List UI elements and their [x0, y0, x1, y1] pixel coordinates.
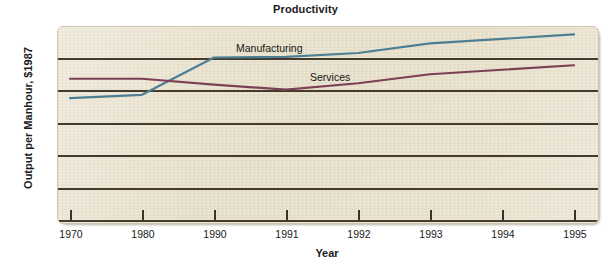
gridline-10 — [58, 155, 598, 157]
gridline-0 — [58, 220, 598, 222]
chart-title: Productivity — [0, 3, 611, 15]
x-tick-1970 — [70, 210, 72, 220]
x-axis-title: Year — [57, 247, 597, 259]
chart-figure: Productivity Output per Manhour, $1987 3… — [0, 0, 611, 274]
x-tick-label-1980: 1980 — [113, 228, 173, 240]
series-label-manufacturing: Manufacturing — [236, 42, 303, 54]
x-tick-label-1992: 1992 — [329, 228, 389, 240]
x-tick-1980 — [142, 210, 144, 220]
x-tick-1993 — [430, 210, 432, 220]
gridline-5 — [58, 188, 598, 190]
gridline-25 — [58, 58, 598, 60]
x-tick-1990 — [214, 210, 216, 220]
x-tick-1991 — [286, 210, 288, 220]
plot-area — [57, 26, 599, 224]
y-axis-title: Output per Manhour, $1987 — [22, 28, 34, 208]
gridline-15 — [58, 123, 598, 125]
x-tick-label-1990: 1990 — [185, 228, 245, 240]
x-tick-label-1993: 1993 — [401, 228, 461, 240]
x-tick-1994 — [502, 210, 504, 220]
x-tick-1992 — [358, 210, 360, 220]
x-tick-label-1970: 1970 — [41, 228, 101, 240]
x-tick-label-1991: 1991 — [257, 228, 317, 240]
gridline-20 — [58, 90, 598, 92]
series-label-services: Services — [310, 71, 350, 83]
x-tick-label-1995: 1995 — [545, 228, 605, 240]
x-tick-label-1994: 1994 — [473, 228, 533, 240]
x-tick-1995 — [574, 210, 576, 220]
